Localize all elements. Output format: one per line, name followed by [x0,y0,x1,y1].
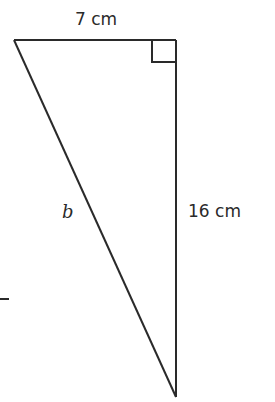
right-angle-marker [152,40,176,62]
hypotenuse-line [14,40,176,397]
hypotenuse-label: b [62,201,74,222]
right-side-label: 16 cm [188,201,241,221]
top-side-label: 7 cm [75,9,117,29]
triangle-diagram: 7 cm 16 cm b [0,0,275,402]
